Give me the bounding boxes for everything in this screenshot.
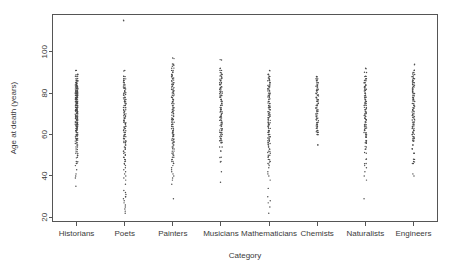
data-point bbox=[172, 146, 173, 147]
data-point bbox=[173, 94, 174, 95]
data-point bbox=[317, 99, 318, 100]
data-point bbox=[77, 124, 78, 125]
data-point bbox=[75, 146, 76, 147]
data-point bbox=[267, 152, 268, 153]
data-point bbox=[125, 175, 126, 176]
data-point bbox=[413, 175, 414, 176]
data-point bbox=[412, 131, 413, 132]
data-point bbox=[77, 146, 78, 147]
data-point bbox=[317, 89, 318, 90]
data-point bbox=[172, 157, 173, 158]
data-point bbox=[412, 128, 413, 129]
data-point bbox=[171, 81, 172, 82]
data-point bbox=[173, 175, 174, 176]
data-point bbox=[125, 132, 126, 133]
data-point bbox=[364, 95, 365, 96]
data-point bbox=[220, 99, 221, 100]
data-point bbox=[268, 113, 269, 114]
data-point bbox=[123, 141, 124, 142]
data-point bbox=[268, 175, 269, 176]
x-axis-title: Category bbox=[229, 251, 261, 260]
data-point bbox=[171, 167, 172, 168]
data-point bbox=[413, 140, 414, 141]
data-point bbox=[267, 142, 268, 143]
data-point bbox=[316, 118, 317, 119]
data-point bbox=[269, 114, 270, 115]
data-point bbox=[413, 159, 414, 160]
data-point bbox=[75, 92, 76, 93]
data-point bbox=[76, 134, 77, 135]
data-point bbox=[123, 138, 124, 139]
data-point bbox=[125, 184, 126, 185]
data-point bbox=[125, 122, 126, 123]
data-point bbox=[125, 204, 126, 205]
data-point bbox=[77, 92, 78, 93]
data-point bbox=[172, 144, 173, 145]
data-point bbox=[77, 105, 78, 106]
data-point bbox=[267, 119, 268, 120]
data-point bbox=[123, 112, 124, 113]
data-point bbox=[366, 167, 367, 168]
data-point bbox=[173, 87, 174, 88]
data-point bbox=[365, 116, 366, 117]
data-point bbox=[221, 111, 222, 112]
data-point bbox=[269, 76, 270, 77]
data-point bbox=[269, 82, 270, 83]
data-point bbox=[123, 129, 124, 130]
data-point bbox=[267, 102, 268, 103]
data-point bbox=[172, 111, 173, 112]
data-point bbox=[123, 98, 124, 99]
data-point bbox=[123, 76, 124, 77]
data-point bbox=[268, 74, 269, 75]
data-point bbox=[267, 85, 268, 86]
data-point bbox=[123, 70, 124, 71]
data-point bbox=[125, 192, 126, 193]
data-point bbox=[123, 87, 124, 88]
data-point bbox=[76, 111, 77, 112]
data-point bbox=[172, 70, 173, 71]
data-point bbox=[413, 125, 414, 126]
data-point bbox=[77, 95, 78, 96]
data-point bbox=[77, 76, 78, 77]
data-point bbox=[317, 134, 318, 135]
data-point bbox=[269, 94, 270, 95]
data-point bbox=[316, 103, 317, 104]
data-point bbox=[414, 105, 415, 106]
data-point bbox=[75, 78, 76, 79]
data-point bbox=[269, 179, 270, 180]
data-point bbox=[172, 154, 173, 155]
data-point bbox=[219, 96, 220, 97]
data-point bbox=[364, 165, 365, 166]
data-point bbox=[317, 84, 318, 85]
data-point bbox=[77, 149, 78, 150]
data-point bbox=[221, 72, 222, 73]
data-point bbox=[172, 177, 173, 178]
data-point bbox=[172, 97, 173, 98]
data-point bbox=[414, 85, 415, 86]
data-point bbox=[123, 200, 124, 201]
y-tick-label: 80 bbox=[40, 88, 49, 97]
data-point bbox=[220, 134, 221, 135]
data-point bbox=[412, 119, 413, 120]
data-point bbox=[75, 105, 76, 106]
data-point bbox=[412, 81, 413, 82]
data-point bbox=[267, 140, 268, 141]
data-point bbox=[125, 99, 126, 100]
data-point bbox=[123, 142, 124, 143]
data-point bbox=[76, 119, 77, 120]
data-point bbox=[123, 97, 124, 98]
data-point bbox=[412, 90, 413, 91]
data-point bbox=[317, 130, 318, 131]
data-point bbox=[269, 151, 270, 152]
data-point bbox=[364, 97, 365, 98]
data-point bbox=[221, 122, 222, 123]
data-point bbox=[268, 146, 269, 147]
data-point bbox=[124, 121, 125, 122]
data-point bbox=[76, 157, 77, 158]
data-point bbox=[124, 152, 125, 153]
data-point bbox=[77, 127, 78, 128]
data-point bbox=[221, 132, 222, 133]
data-point bbox=[316, 131, 317, 132]
data-point bbox=[75, 97, 76, 98]
data-point bbox=[221, 128, 222, 129]
